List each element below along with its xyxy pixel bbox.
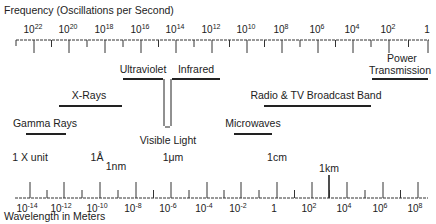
spectrum-bands: UltravioletInfraredX-RaysRadio & TV Broa…: [13, 52, 431, 134]
band-label: X-Rays: [72, 89, 106, 101]
band-label: Infrared: [178, 63, 214, 75]
band-label: Transmission: [369, 64, 431, 76]
frequency-tick-label: 1016: [131, 23, 150, 35]
wavelength-axis-title: Wavelength in Meters: [4, 210, 105, 222]
unit-marker-label: 1nm: [106, 160, 127, 172]
frequency-axis: 1022102010181016101410121010108106104102…: [16, 23, 430, 53]
frequency-tick-label: 108: [273, 23, 288, 35]
frequency-tick-label: 1022: [24, 23, 43, 35]
unit-marker-label: 1cm: [267, 151, 287, 163]
unit-marker-label: 1Å: [91, 151, 104, 163]
band-label: Radio & TV Broadcast Band: [250, 89, 381, 101]
band-label: Power: [387, 52, 417, 64]
frequency-tick-label: 1018: [95, 23, 114, 35]
wavelength-tick-label: 108: [407, 202, 422, 214]
wavelength-tick-label: 10-2: [229, 202, 246, 214]
frequency-tick-label: 102: [380, 23, 395, 35]
unit-markers: 1 X unit1Å1nm1μm1cm1km: [12, 151, 339, 198]
frequency-tick-label: 1: [424, 24, 430, 35]
unit-marker-label: 1 X unit: [12, 151, 48, 163]
frequency-tick-label: 1014: [166, 23, 185, 35]
unit-marker-label: 1μm: [163, 151, 184, 163]
wavelength-tick-label: 104: [336, 202, 351, 214]
frequency-tick-label: 104: [344, 23, 359, 35]
wavelength-tick-label: 1: [271, 203, 277, 214]
frequency-axis-title: Frequency (Oscillations per Second): [4, 4, 174, 16]
frequency-tick-label: 106: [309, 23, 324, 35]
frequency-tick-label: 1012: [202, 23, 221, 35]
frequency-tick-label: 1020: [59, 23, 78, 35]
wavelength-tick-label: 10-6: [159, 202, 176, 214]
unit-marker-label: 1km: [319, 162, 339, 174]
frequency-tick-label: 1010: [237, 23, 256, 35]
band-label: Gamma Rays: [13, 117, 77, 129]
wavelength-tick-label: 10-4: [195, 202, 212, 214]
wavelength-tick-label: 106: [372, 202, 387, 214]
visible-light-label: Visible Light: [140, 134, 197, 146]
band-label: Microwaves: [225, 117, 280, 129]
visible-light-marker: Visible Light: [140, 79, 197, 146]
electromagnetic-spectrum-diagram: Frequency (Oscillations per Second) 1022…: [0, 0, 436, 224]
wavelength-tick-label: 10-8: [124, 202, 141, 214]
band-label: Ultraviolet: [120, 63, 167, 75]
wavelength-tick-label: 102: [301, 202, 316, 214]
